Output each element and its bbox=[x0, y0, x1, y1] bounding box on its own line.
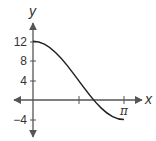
y-tick-label-8: 8 bbox=[20, 54, 27, 68]
y-tick-label-neg4: −4 bbox=[13, 113, 27, 127]
cosine-graph: y x 12 8 4 −4 π bbox=[0, 0, 156, 141]
x-tick-label-pi: π bbox=[119, 104, 129, 118]
y-tick-label-12: 12 bbox=[14, 35, 28, 49]
y-axis-label: y bbox=[28, 3, 37, 19]
y-tick-label-4: 4 bbox=[20, 74, 27, 88]
x-axis-label: x bbox=[144, 91, 153, 107]
cosine-curve bbox=[33, 41, 124, 119]
